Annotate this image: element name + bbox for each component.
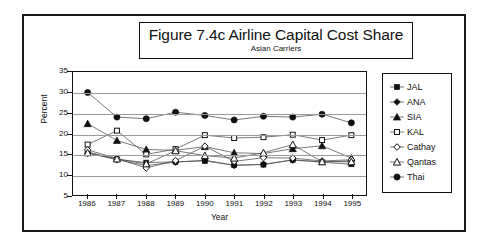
open-square-icon [390, 126, 404, 138]
y-tick-mark [67, 196, 72, 197]
filled-circle-icon [390, 171, 404, 183]
x-tick-mark [205, 194, 206, 199]
x-tick-mark [323, 194, 324, 199]
y-tick-label: 20 [46, 130, 68, 138]
legend-label: Cathay [407, 142, 436, 152]
data-point [143, 116, 149, 122]
x-tick-mark [264, 194, 265, 199]
series-jal [85, 149, 354, 167]
y-tick-label: 25 [46, 109, 68, 117]
legend-item-thai[interactable]: Thai [383, 169, 451, 184]
gridline [73, 155, 366, 156]
data-point [113, 137, 120, 144]
legend-label: JAL [407, 82, 423, 92]
series-thai [85, 89, 355, 125]
gridline [73, 93, 366, 94]
data-point [84, 120, 91, 127]
data-point [231, 117, 237, 123]
data-point [320, 138, 325, 143]
legend-label: Thai [407, 172, 425, 182]
legend-item-sia[interactable]: SIA [383, 109, 451, 124]
series-line [88, 124, 352, 158]
open-diamond-icon [390, 141, 404, 153]
y-tick-label: 30 [46, 88, 68, 96]
legend-label: KAL [407, 127, 424, 137]
filled-diamond-icon [390, 96, 404, 108]
data-point [290, 114, 296, 120]
legend-item-cathay[interactable]: Cathay [383, 139, 451, 154]
filled-triangle-icon [390, 111, 404, 123]
x-axis-label: Year [72, 212, 367, 222]
legend-item-kal[interactable]: KAL [383, 124, 451, 139]
data-point [114, 114, 120, 120]
y-tick-label: 5 [46, 192, 68, 200]
legend-label: Qantas [407, 157, 436, 167]
data-point [289, 141, 296, 148]
plot-area [72, 71, 367, 196]
legend-label: ANA [407, 97, 426, 107]
x-tick-mark [352, 194, 353, 199]
x-tick-mark [175, 194, 176, 199]
gridline [73, 176, 366, 177]
series-ana [84, 150, 354, 169]
legend-item-ana[interactable]: ANA [383, 94, 451, 109]
legend-item-jal[interactable]: JAL [383, 79, 451, 94]
data-point [318, 142, 325, 149]
legend-label: SIA [407, 112, 422, 122]
legend-item-qantas[interactable]: Qantas [383, 154, 451, 169]
open-triangle-icon [390, 156, 404, 168]
x-tick-mark [116, 194, 117, 199]
x-tick-mark [146, 194, 147, 199]
x-tick-labels: 1986198719881989199019911992199319941995 [72, 199, 367, 211]
x-tick-label: 1995 [335, 199, 369, 208]
y-tick-labels: 5101520253035 [44, 71, 68, 196]
y-tick-label: 10 [46, 171, 68, 179]
series-kal [85, 128, 354, 157]
data-point [232, 136, 237, 141]
figure-frame: Figure 7.4c Airline Capital Cost Share A… [22, 14, 466, 232]
chart-legend: JALANASIAKALCathayQantasThai [382, 73, 452, 193]
y-tick-label: 15 [46, 150, 68, 158]
series-line [88, 92, 352, 122]
gridline [73, 114, 366, 115]
x-tick-mark [87, 194, 88, 199]
y-tick-label: 35 [46, 67, 68, 75]
x-tick-mark [293, 194, 294, 199]
x-tick-mark [234, 194, 235, 199]
data-point [348, 120, 354, 126]
data-point [114, 128, 119, 133]
filled-square-icon [390, 81, 404, 93]
gridline [73, 135, 366, 136]
